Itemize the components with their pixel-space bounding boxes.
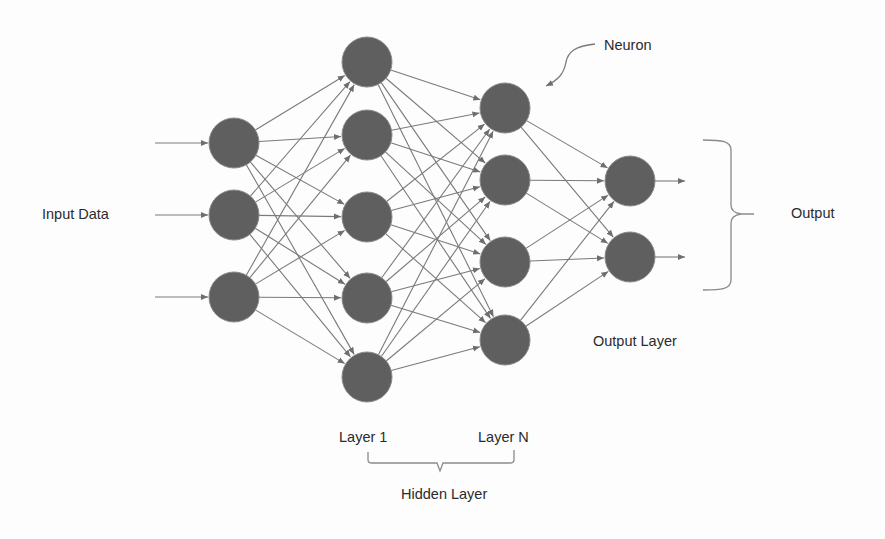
neuron-hidden-1 <box>342 273 392 323</box>
connection-edge <box>530 180 604 181</box>
connection-edge <box>386 279 485 361</box>
connection-edge <box>391 70 481 100</box>
neuron-hidden-n <box>480 315 530 365</box>
connection-edge <box>381 201 490 356</box>
neural-network-diagram: Input Data Neuron Output Output Layer La… <box>0 0 885 539</box>
layer-n-label: Layer N <box>478 430 529 445</box>
neuron-hidden-1 <box>342 352 392 402</box>
connection-edge <box>526 193 608 243</box>
connection-edge <box>527 121 608 168</box>
layer-1-label: Layer 1 <box>339 430 387 445</box>
network-graph <box>0 0 885 539</box>
connection-edge <box>526 195 608 248</box>
neurons <box>209 37 655 402</box>
neuron-label: Neuron <box>604 38 652 53</box>
neuron-pointer-arrow <box>546 44 595 86</box>
output-brace <box>703 140 754 290</box>
connection-edge <box>382 129 490 278</box>
input-data-label: Input Data <box>42 207 109 222</box>
output-label: Output <box>791 206 835 221</box>
neuron-output <box>605 156 655 206</box>
connections <box>246 70 614 371</box>
neuron-input <box>209 190 259 240</box>
neuron-input <box>209 272 259 322</box>
connection-edge <box>250 82 350 197</box>
neuron-hidden-1 <box>342 110 392 160</box>
connection-edge <box>526 271 609 326</box>
connection-edge <box>246 85 354 276</box>
connection-edge <box>381 83 490 241</box>
neuron-hidden-n <box>480 155 530 205</box>
neuron-hidden-1 <box>342 37 392 87</box>
neuron-hidden-1 <box>342 192 392 242</box>
connection-edge <box>255 310 344 364</box>
connection-edge <box>391 347 480 371</box>
connection-edge <box>386 78 485 163</box>
hidden-layer-bracket <box>368 450 514 471</box>
connection-edge <box>250 234 351 357</box>
neuron-hidden-n <box>480 237 530 287</box>
neuron-input <box>209 118 259 168</box>
neuron-hidden-n <box>480 83 530 133</box>
output-layer-label: Output Layer <box>593 334 677 349</box>
connection-edge <box>392 113 480 130</box>
hidden-layer-label: Hidden Layer <box>401 487 487 502</box>
connection-edge <box>391 305 480 332</box>
connection-edge <box>378 84 493 316</box>
connection-edge <box>246 165 354 355</box>
neuron-output <box>605 232 655 282</box>
connection-edge <box>259 297 341 298</box>
connection-edge <box>381 156 491 319</box>
